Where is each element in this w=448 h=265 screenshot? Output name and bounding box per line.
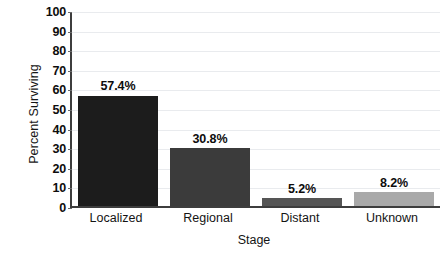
y-tick-mark [68,110,72,111]
y-tick-mark [68,149,72,150]
y-tick-mark [68,188,72,189]
y-tick-mark [68,51,72,52]
y-tick-label: 90 [28,26,66,39]
x-tick-label: Regional [162,211,254,225]
y-tick-mark [68,12,72,13]
bar-value-label: 30.8% [158,132,262,146]
bar [170,148,250,208]
y-tick-mark [68,32,72,33]
bar-chart-figure: Percent Surviving 1009080706050403020100… [0,0,448,265]
bar-value-label: 57.4% [66,79,170,93]
x-tick-label: Unknown [346,211,438,225]
x-tick-label: Distant [254,211,346,225]
y-tick-label: 0 [28,202,66,215]
x-axis-tick-labels: LocalizedRegionalDistantUnknown [70,211,438,229]
gridline [72,12,440,13]
y-tick-mark [68,130,72,131]
plot-area: 57.4%30.8%5.2%8.2% [70,12,440,208]
y-tick-mark [68,169,72,170]
y-tick-mark [68,208,72,209]
y-tick-label: 20 [28,163,66,176]
y-tick-label: 70 [28,65,66,78]
y-tick-label: 50 [28,104,66,117]
bar-value-label: 5.2% [250,182,354,196]
bar-value-label: 8.2% [342,176,446,190]
y-tick-label: 40 [28,124,66,137]
y-tick-label: 60 [28,84,66,97]
y-tick-mark [68,71,72,72]
bar [78,96,158,209]
x-tick-label: Localized [70,211,162,225]
y-tick-label: 80 [28,45,66,58]
y-tick-label: 30 [28,143,66,156]
y-axis-tick-labels: 1009080706050403020100 [28,12,66,208]
y-tick-label: 100 [28,6,66,19]
x-axis-line [70,206,440,208]
gridline [72,32,440,33]
y-tick-label: 10 [28,182,66,195]
gridline [72,51,440,52]
gridline [72,71,440,72]
x-axis-title: Stage [70,233,438,247]
